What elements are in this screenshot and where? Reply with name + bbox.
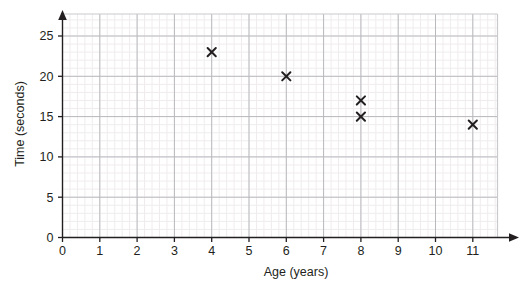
scatter-chart: 01234567891011 0510152025 Age (years) Ti… bbox=[0, 0, 532, 294]
y-tick-label: 5 bbox=[47, 191, 54, 205]
x-tick-label: 10 bbox=[429, 244, 443, 258]
y-axis-title: Time (seconds) bbox=[13, 81, 27, 167]
x-tick-label: 4 bbox=[208, 244, 215, 258]
y-tick-label: 20 bbox=[40, 70, 54, 84]
y-tick-label: 25 bbox=[40, 29, 54, 43]
x-tick-label: 7 bbox=[320, 244, 327, 258]
x-tick-label: 11 bbox=[466, 244, 479, 258]
x-tick-label: 8 bbox=[357, 244, 364, 258]
x-axis-title: Age (years) bbox=[264, 265, 329, 279]
x-tick-label: 0 bbox=[59, 244, 66, 258]
y-tick-label: 15 bbox=[40, 110, 54, 124]
x-tick-label: 6 bbox=[283, 244, 290, 258]
x-tick-label: 3 bbox=[171, 244, 178, 258]
x-tick-label: 2 bbox=[134, 244, 141, 258]
x-tick-label: 1 bbox=[96, 244, 103, 258]
chart-canvas: 01234567891011 0510152025 Age (years) Ti… bbox=[0, 0, 532, 294]
x-tick-label: 5 bbox=[246, 244, 253, 258]
y-tick-label: 0 bbox=[47, 231, 54, 245]
x-tick-label: 9 bbox=[395, 244, 402, 258]
y-tick-label: 10 bbox=[40, 150, 54, 164]
